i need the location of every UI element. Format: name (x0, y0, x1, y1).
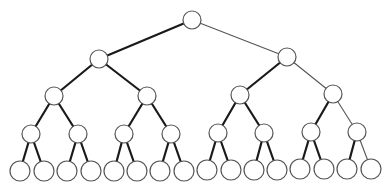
tree-node (69, 125, 87, 143)
tree-node (231, 86, 249, 104)
tree-node (302, 123, 320, 141)
tree-leaf-node (174, 161, 194, 181)
tree-svg (0, 0, 391, 190)
tree-node (138, 87, 156, 105)
nodes-layer (10, 11, 381, 181)
tree-leaf-node (81, 161, 101, 181)
tree-node (209, 124, 227, 142)
tree-leaf-node (57, 161, 77, 181)
binary-tree-diagram (0, 0, 391, 190)
tree-node (45, 87, 63, 105)
tree-node (348, 123, 366, 141)
tree-leaf-node (267, 160, 287, 180)
tree-node (255, 124, 273, 142)
tree-leaf-node (361, 159, 381, 179)
tree-edge-thin (192, 20, 287, 57)
tree-leaf-node (10, 161, 30, 181)
tree-edge-thick (99, 20, 192, 59)
tree-node (324, 85, 342, 103)
tree-leaf-node (150, 161, 170, 181)
tree-node (22, 125, 40, 143)
tree-leaf-node (314, 159, 334, 179)
tree-node (162, 125, 180, 143)
tree-node (278, 48, 296, 66)
tree-node (90, 50, 108, 68)
edges-layer (20, 20, 371, 171)
tree-leaf-node (290, 159, 310, 179)
tree-node (115, 125, 133, 143)
tree-root-node (183, 11, 201, 29)
tree-leaf-node (34, 161, 54, 181)
tree-leaf-node (221, 160, 241, 180)
tree-leaf-node (104, 161, 124, 181)
tree-leaf-node (197, 160, 217, 180)
tree-leaf-node (127, 161, 147, 181)
tree-leaf-node (337, 159, 357, 179)
tree-leaf-node (244, 160, 264, 180)
